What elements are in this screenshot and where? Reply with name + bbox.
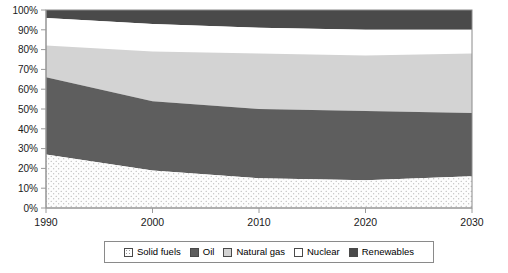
legend-item-natural-gas[interactable]: Natural gas	[223, 247, 285, 257]
legend-item-nuclear[interactable]: Nuclear	[294, 247, 340, 257]
legend-swatch-natural-gas	[223, 248, 232, 257]
x-tick-label: 2020	[354, 216, 378, 228]
x-axis-ticks	[46, 208, 472, 213]
stacked-area-chart: 100% 90% 80% 70% 60% 50% 40% 30% 20% 10%…	[0, 0, 508, 273]
chart-legend: Solid fuels Oil Natural gas Nuclear Rene…	[104, 241, 434, 263]
y-axis-ticks	[41, 10, 46, 208]
legend-label-solid-fuels: Solid fuels	[137, 247, 181, 257]
plot-area-wrapper: 100% 90% 80% 70% 60% 50% 40% 30% 20% 10%…	[0, 0, 508, 232]
legend-label-oil: Oil	[203, 247, 215, 257]
legend-item-oil[interactable]: Oil	[190, 247, 215, 257]
legend-swatch-oil	[190, 248, 199, 257]
chart-svg: 100% 90% 80% 70% 60% 50% 40% 30% 20% 10%…	[0, 0, 508, 232]
y-tick-label: 80%	[18, 44, 38, 55]
y-tick-label: 100%	[12, 5, 38, 16]
y-tick-label: 90%	[18, 25, 38, 36]
y-tick-label: 20%	[18, 163, 38, 174]
legend-swatch-renewables	[349, 248, 358, 257]
x-axis-labels: 1990 2000 2010 2020 2030	[34, 216, 484, 228]
legend-item-solid-fuels[interactable]: Solid fuels	[124, 247, 181, 257]
legend-label-nuclear: Nuclear	[307, 247, 340, 257]
x-tick-label: 2000	[141, 216, 165, 228]
legend-swatch-nuclear	[294, 248, 303, 257]
y-tick-label: 50%	[18, 104, 38, 115]
y-tick-label: 0%	[24, 203, 39, 214]
legend-label-natural-gas: Natural gas	[236, 247, 285, 257]
x-tick-label: 2010	[247, 216, 271, 228]
legend-swatch-solid-fuels	[124, 248, 133, 257]
x-tick-label: 2030	[460, 216, 484, 228]
legend-item-renewables[interactable]: Renewables	[349, 247, 414, 257]
y-tick-label: 40%	[18, 124, 38, 135]
y-tick-label: 70%	[18, 64, 38, 75]
y-tick-label: 30%	[18, 143, 38, 154]
x-tick-label: 1990	[34, 216, 58, 228]
y-axis-labels: 100% 90% 80% 70% 60% 50% 40% 30% 20% 10%…	[12, 5, 38, 214]
y-tick-label: 60%	[18, 84, 38, 95]
y-tick-label: 10%	[18, 183, 38, 194]
legend-label-renewables: Renewables	[362, 247, 414, 257]
